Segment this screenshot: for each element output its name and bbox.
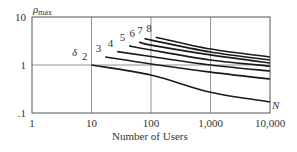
x-tick-label: 10: [86, 117, 98, 129]
x-tick-label: 1: [29, 117, 35, 129]
curves: [92, 37, 271, 102]
curve-label-6: 6: [130, 27, 136, 39]
y-tick-label: 10: [15, 11, 27, 23]
curve-label-4: 4: [108, 37, 114, 49]
y-tick-label: 1: [21, 59, 27, 71]
x-axis-title: Number of Users: [112, 130, 188, 142]
y-tick-label: .1: [18, 107, 26, 119]
x-tick-label: 1,000: [198, 117, 223, 129]
curve-label-8: 8: [146, 22, 152, 34]
curve-label-2: 2: [82, 50, 88, 62]
y-axis-label: ρmax: [32, 3, 52, 17]
curve-delta-7: [145, 39, 270, 60]
delta-label: δ: [72, 46, 78, 58]
x-tick-label: 100: [143, 117, 160, 129]
chart: 1101001,00010,000.1110 2345678 ρmax N Nu…: [0, 0, 297, 152]
curve-label-3: 3: [96, 42, 102, 54]
x-tick-label: 10,000: [255, 117, 286, 129]
curve-delta-2: [92, 65, 271, 102]
curve-label-7: 7: [137, 24, 143, 36]
x-axis-symbol: N: [271, 99, 280, 111]
curve-labels: 2345678: [82, 22, 152, 62]
curve-label-5: 5: [120, 31, 126, 43]
